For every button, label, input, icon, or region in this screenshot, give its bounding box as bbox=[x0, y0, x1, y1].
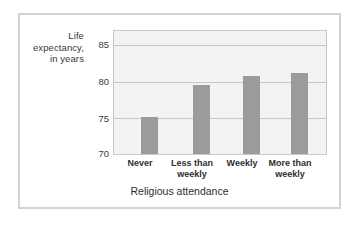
x-tick-label-line: weekly bbox=[161, 169, 223, 180]
y-tick-label-70: 70 bbox=[85, 148, 109, 159]
y-axis-title-line-1: Life bbox=[2, 30, 84, 42]
y-tick-label-85: 85 bbox=[85, 39, 109, 50]
bar-less-than-weekly bbox=[193, 85, 210, 154]
x-axis-title: Religious attendance bbox=[0, 185, 359, 197]
x-tick-label-line: weekly bbox=[259, 169, 321, 180]
bar-weekly bbox=[243, 76, 260, 154]
y-tick-label-75: 75 bbox=[85, 113, 109, 124]
y-tick-label-80: 80 bbox=[85, 76, 109, 87]
y-axis-title: Life expectancy, in years bbox=[2, 30, 84, 65]
y-axis-title-line-2: expectancy, bbox=[2, 42, 84, 54]
bar-never bbox=[141, 117, 158, 154]
y-axis-title-line-3: in years bbox=[2, 53, 84, 65]
bar-more-than-weekly bbox=[291, 73, 308, 154]
x-tick-label-line: More than bbox=[259, 158, 321, 169]
x-tick-label-more-than-weekly: More than weekly bbox=[259, 158, 321, 179]
gridline-85 bbox=[114, 45, 326, 46]
plot-area bbox=[113, 30, 327, 155]
